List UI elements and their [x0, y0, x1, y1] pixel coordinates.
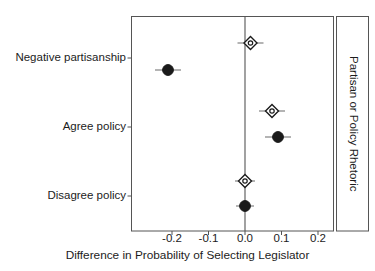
x-tick-label-0-1: 0.1	[274, 233, 290, 245]
y-axis-label-text: Negative partisanship	[15, 51, 126, 63]
x-tick-label-neg-0-1: -0.1	[199, 233, 219, 245]
x-tick-label-0-2: 0.2	[310, 233, 326, 245]
datapoint-negative-partisanship-open-diamond	[238, 37, 264, 50]
scatter-plot-svg	[0, 0, 375, 271]
x-tick-label-0-0: 0.0	[237, 233, 253, 245]
y-axis-label-negative-partisanship: Negative partisanship	[0, 52, 126, 64]
x-tick-label-neg-0-2: -0.2	[162, 233, 182, 245]
y-axis-label-disagree-policy: Disagree policy	[0, 190, 126, 202]
datapoint-agree-policy-open-diamond	[259, 105, 285, 118]
panel-strip-label-text: Partisan or Policy Rhetoric	[347, 56, 359, 192]
datapoint-disagree-policy-filled-circle	[236, 201, 254, 212]
datapoint-disagree-policy-open-diamond	[235, 175, 255, 188]
datapoint-agree-policy-filled-circle	[265, 132, 291, 143]
plot-panel-frame	[132, 17, 334, 232]
y-axis-label-text: Agree policy	[63, 120, 126, 132]
y-axis-label-text: Disagree policy	[47, 189, 126, 201]
panel-strip-label: Partisan or Policy Rhetoric	[337, 16, 369, 231]
datapoint-negative-partisanship-filled-circle	[155, 65, 181, 76]
y-axis-label-agree-policy: Agree policy	[0, 121, 126, 133]
y-axis-ticks	[128, 58, 132, 196]
x-axis-title: Difference in Probability of Selecting L…	[0, 250, 375, 262]
chart-figure: Negative partisanship Agree policy Disag…	[0, 0, 375, 271]
